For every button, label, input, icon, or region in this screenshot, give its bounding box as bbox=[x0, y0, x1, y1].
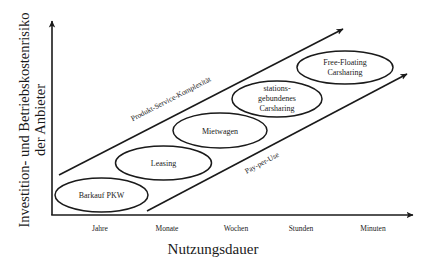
node-label-line3: Carsharing bbox=[259, 104, 294, 113]
node-mietwagen: Mietwagen bbox=[173, 113, 267, 148]
x-tick-monate: Monate bbox=[156, 224, 180, 233]
node-label-line2: gebundenes bbox=[258, 94, 296, 103]
x-axis-label: Nutzungsdauer bbox=[168, 241, 259, 257]
node-stationsgebundenes-carsharing: stations- gebundenes Carsharing bbox=[232, 81, 322, 117]
node-label: Leasing bbox=[151, 159, 176, 168]
x-tick-jahre: Jahre bbox=[92, 224, 108, 233]
node-leasing: Leasing bbox=[116, 146, 212, 180]
node-label-line1: stations- bbox=[263, 84, 290, 93]
x-tick-minuten: Minuten bbox=[360, 224, 386, 233]
y-axis-label-line1: Investition- und Betriebskostenrisiko bbox=[16, 12, 32, 227]
node-label-line1: Free-Floating bbox=[323, 58, 367, 67]
node-free-floating-carsharing: Free-Floating Carsharing bbox=[297, 51, 393, 84]
diagram-canvas: Investition- und Betriebskostenrisiko de… bbox=[0, 0, 431, 263]
node-label: Barkauf PKW bbox=[79, 191, 125, 200]
x-tick-stunden: Stunden bbox=[289, 224, 314, 233]
node-label-line2: Carsharing bbox=[327, 68, 362, 77]
node-barkauf-pkw: Barkauf PKW bbox=[55, 178, 148, 212]
y-axis-label-line2: der Anbieter bbox=[32, 84, 48, 156]
node-label: Mietwagen bbox=[202, 127, 238, 136]
lower-arrow-label: Pay-per-Use bbox=[243, 150, 281, 176]
x-tick-wochen: Wochen bbox=[224, 224, 249, 233]
